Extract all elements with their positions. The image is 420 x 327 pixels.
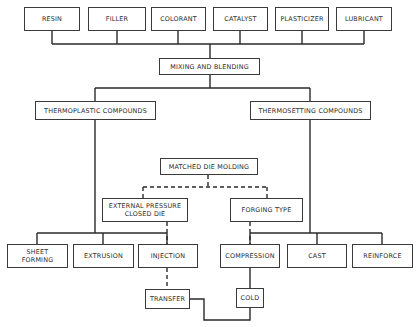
cold-box: COLD [236, 288, 264, 308]
transfer-box: TRANSFER [145, 289, 190, 309]
compression-box: COMPRESSION [220, 244, 280, 268]
sheet-forming-box: SHEET FORMING [7, 244, 68, 268]
matched-die-molding-box: MATCHED DIE MOLDING [160, 158, 258, 175]
thermoplastic-compounds-box: THERMOPLASTIC COMPOUNDS [35, 101, 156, 120]
thermosetting-compounds-box: THERMOSETTING COMPOUNDS [250, 101, 371, 120]
lubricant-box: LUBRICANT [336, 7, 392, 31]
plastics-process-flowchart: RESIN FILLER COLORANT CATALYST PLASTICIZ… [0, 0, 420, 327]
plasticizer-box: PLASTICIZER [275, 7, 329, 31]
catalyst-box: CATALYST [213, 7, 268, 31]
mixing-blending-box: MIXING AND BLENDING [159, 58, 260, 75]
extrusion-box: EXTRUSION [73, 244, 134, 268]
colorant-box: COLORANT [151, 7, 206, 31]
reinforce-box: REINFORCE [352, 244, 413, 268]
external-pressure-closed-die-box: EXTERNAL PRESSURE CLOSED DIE [102, 198, 188, 222]
forging-type-box: FORGING TYPE [230, 198, 303, 222]
resin-box: RESIN [24, 7, 80, 31]
injection-box: INJECTION [138, 244, 198, 268]
filler-box: FILLER [88, 7, 146, 31]
cast-box: CAST [287, 244, 347, 268]
